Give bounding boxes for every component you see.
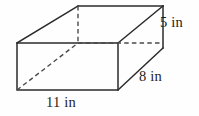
width-dimension-label: 11 in: [46, 95, 76, 110]
top-left-slant-edge: [17, 6, 78, 43]
depth-dimension-label: 8 in: [139, 69, 162, 84]
top-right-slant-edge: [118, 6, 163, 43]
height-dimension-label: 5 in: [160, 15, 183, 30]
hidden-diagonal-edge: [17, 43, 78, 90]
front-face-edges: [17, 43, 118, 90]
rectangular-prism-figure: 5 in 8 in 11 in: [0, 0, 199, 116]
